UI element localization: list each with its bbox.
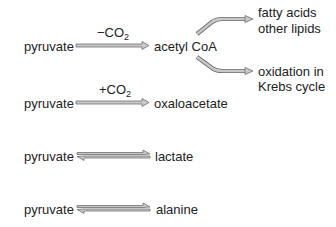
branch-oxidation-in: oxidation in <box>258 65 324 78</box>
product-oxaloacetate: oxaloacetate <box>154 97 228 110</box>
condition-minus-co2: −CO2 <box>97 26 129 44</box>
substrate-pyruvate-2: pyruvate <box>24 97 74 110</box>
branch-fatty-acids: fatty acids <box>258 6 317 19</box>
condition-text: −CO <box>97 25 124 40</box>
condition-plus-co2: +CO2 <box>99 83 131 101</box>
condition-text: +CO <box>99 82 126 97</box>
arrow-acetyl-coa-to-krebs <box>197 57 253 75</box>
substrate-pyruvate-1: pyruvate <box>24 40 74 53</box>
branch-other-lipids: other lipids <box>258 22 321 35</box>
substrate-pyruvate-4: pyruvate <box>24 203 74 216</box>
arrow-pyruvate-lactate-reversible <box>77 150 150 161</box>
branch-krebs-cycle: Krebs cycle <box>258 80 325 93</box>
condition-subscript: 2 <box>124 32 129 42</box>
product-alanine: alanine <box>156 203 198 216</box>
condition-subscript: 2 <box>126 89 131 99</box>
product-acetyl-coa: acetyl CoA <box>154 40 217 53</box>
product-lactate: lactate <box>155 150 193 163</box>
arrow-pyruvate-alanine-reversible <box>77 203 150 214</box>
substrate-pyruvate-3: pyruvate <box>24 150 74 163</box>
arrow-acetyl-coa-to-fatty-acids <box>197 16 253 35</box>
